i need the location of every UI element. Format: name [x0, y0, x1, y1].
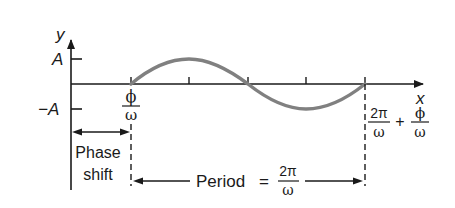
svg-text:Period: Period: [196, 172, 245, 191]
y-axis-label: y: [55, 25, 66, 44]
end-point-expression: 2π ω + ϕ ω: [368, 104, 429, 140]
y-tick-label-a: A: [51, 50, 63, 69]
svg-text:ω: ω: [414, 124, 425, 140]
svg-text:ω: ω: [282, 182, 293, 198]
svg-text:ω: ω: [125, 106, 137, 124]
svg-text:2π: 2π: [370, 105, 388, 121]
svg-text:ϕ: ϕ: [415, 104, 425, 122]
y-axis: y A −A: [38, 25, 82, 190]
phase-shift-arrow: [72, 129, 130, 136]
phase-shift-label-line1: Phase: [75, 144, 120, 161]
svg-text:ω: ω: [373, 124, 384, 140]
svg-text:2π: 2π: [279, 163, 297, 179]
svg-text:=: =: [259, 172, 269, 191]
period-label: Period = 2π ω: [196, 163, 299, 198]
sinusoid-diagram: y A −A x ϕ ω 2π ω + ϕ ω Phas: [0, 0, 455, 208]
x-axis: x: [71, 77, 425, 108]
svg-text:+: +: [395, 113, 404, 130]
phase-shift-label-line2: shift: [83, 166, 113, 183]
svg-text:ϕ: ϕ: [126, 87, 137, 106]
phase-shift-fraction: ϕ ω: [122, 87, 140, 124]
period-arrow: [133, 178, 363, 185]
y-tick-label-neg-a: −A: [38, 100, 59, 119]
